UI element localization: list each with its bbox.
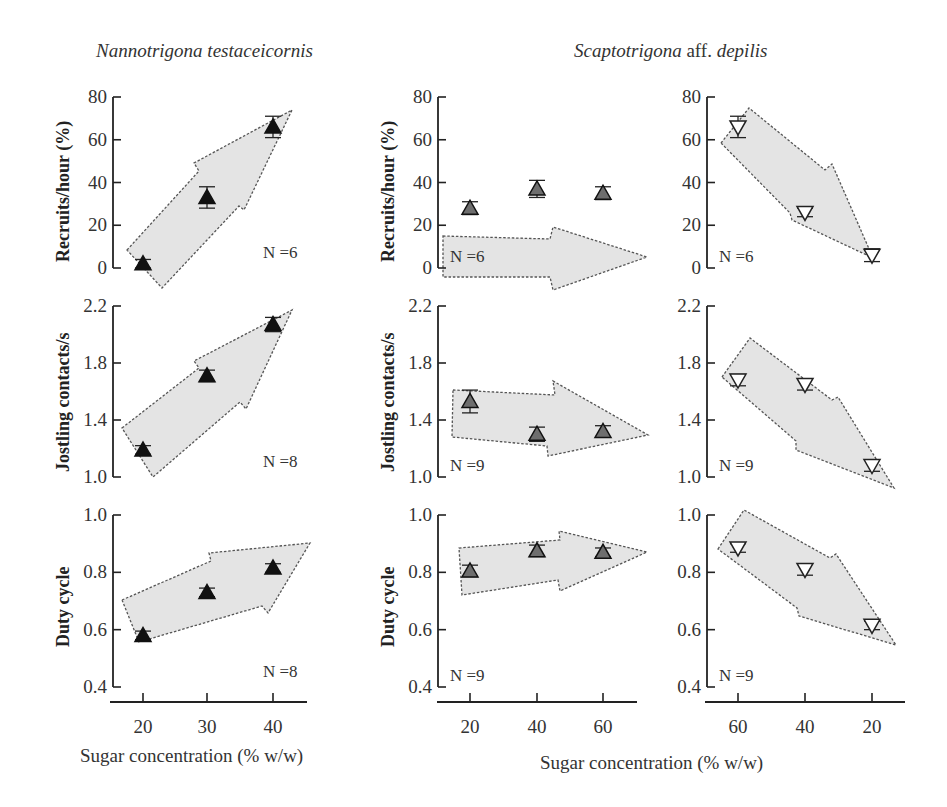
y-tick-label: 1.0: [677, 466, 701, 487]
panel-1-0: 1.01.41.82.2N =8: [83, 295, 297, 487]
trend-arrow: [721, 108, 873, 258]
y-tick-label: 0.4: [83, 676, 107, 697]
sample-size-label: N =8: [263, 662, 298, 681]
y-tick-label: 60: [88, 129, 107, 150]
sample-size-label: N =9: [450, 456, 485, 475]
y-tick-label: 1.4: [408, 409, 432, 430]
panel-2-1: 0.40.60.81.0N =9204060: [408, 504, 647, 737]
y-tick-label: 40: [413, 172, 432, 193]
y-tick-label: 2.2: [83, 295, 107, 316]
y-tick-label: 40: [682, 172, 701, 193]
x-tick-label: 40: [264, 716, 283, 737]
panel-1-2: 1.01.41.82.2N =9: [677, 295, 894, 488]
sample-size-label: N =6: [263, 243, 298, 262]
y-tick-label: 1.4: [83, 409, 107, 430]
y-tick-label: 20: [413, 214, 432, 235]
chart-figure: 020406080N =6020406080N =6020406080N =61…: [0, 0, 947, 807]
panel-1-1: 1.01.41.82.2N =9: [408, 295, 648, 487]
x-tick-label: 40: [528, 716, 547, 737]
y-tick-label: 80: [88, 86, 107, 107]
x-tick-label: 40: [796, 716, 815, 737]
x-tick-label: 20: [863, 716, 882, 737]
data-marker: [529, 181, 545, 195]
y-tick-label: 1.0: [83, 504, 107, 525]
y-tick-label: 0: [423, 257, 433, 278]
trend-arrow: [459, 531, 647, 595]
y-tick-label: 0: [692, 257, 702, 278]
panel-2-2: 0.40.60.81.0N =9604020: [677, 504, 905, 737]
sample-size-label: N =9: [719, 666, 754, 685]
sample-size-label: N =9: [719, 456, 754, 475]
y-tick-label: 20: [88, 214, 107, 235]
y-tick-label: 0.6: [408, 619, 432, 640]
panel-0-1: 020406080N =6: [413, 86, 647, 290]
y-tick-label: 1.0: [408, 504, 432, 525]
y-tick-label: 0.8: [408, 561, 432, 582]
y-tick-label: 0: [98, 257, 108, 278]
sample-size-label: N =9: [450, 666, 485, 685]
panel-0-2: 020406080N =6: [682, 86, 880, 278]
y-tick-label: 1.8: [408, 352, 432, 373]
y-tick-label: 80: [682, 86, 701, 107]
panel-2-0: 0.40.60.81.0N =8203040: [83, 504, 310, 737]
x-tick-label: 60: [594, 716, 613, 737]
y-tick-label: 1.8: [677, 352, 701, 373]
trend-arrow: [122, 543, 310, 642]
sample-size-label: N =8: [263, 452, 298, 471]
trend-arrow: [452, 381, 648, 456]
x-tick-label: 20: [134, 716, 153, 737]
x-tick-label: 30: [198, 716, 217, 737]
y-tick-label: 1.8: [83, 352, 107, 373]
panel-0-0: 020406080N =6: [88, 86, 298, 288]
y-tick-label: 1.0: [408, 466, 432, 487]
y-tick-label: 0.4: [677, 676, 701, 697]
y-tick-label: 0.8: [83, 561, 107, 582]
y-tick-label: 80: [413, 86, 432, 107]
y-tick-label: 20: [682, 214, 701, 235]
y-tick-label: 1.0: [83, 466, 107, 487]
x-tick-label: 60: [729, 716, 748, 737]
y-tick-label: 1.4: [677, 409, 701, 430]
y-tick-label: 2.2: [677, 295, 701, 316]
y-tick-label: 1.0: [677, 504, 701, 525]
y-tick-label: 0.6: [677, 619, 701, 640]
y-tick-label: 60: [413, 129, 432, 150]
y-tick-label: 0.8: [677, 561, 701, 582]
y-tick-label: 0.6: [83, 619, 107, 640]
x-tick-label: 20: [461, 716, 480, 737]
y-tick-label: 2.2: [408, 295, 432, 316]
y-tick-label: 0.4: [408, 676, 432, 697]
sample-size-label: N =6: [450, 247, 485, 266]
y-tick-label: 40: [88, 172, 107, 193]
sample-size-label: N =6: [719, 247, 754, 266]
y-tick-label: 60: [682, 129, 701, 150]
